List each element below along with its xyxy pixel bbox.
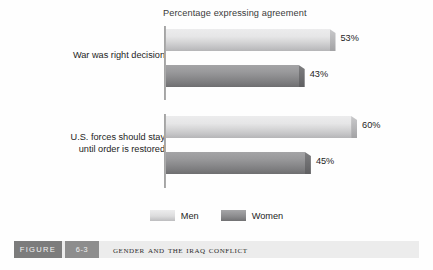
chart-title: Percentage expressing agreement [163,8,307,18]
figure-word-badge: FIGURE [14,241,62,258]
chart-legend: Men Women [0,210,433,221]
bar-end-cap [305,152,311,174]
bar-face [166,116,351,138]
bar-face [166,29,330,51]
bar-face [166,152,305,174]
figure-caption-bar: FIGURE 6-3 Gender and the Iraq Conflict [14,241,419,258]
bar-value-label: 53% [341,33,359,43]
bar-value-label: 43% [310,69,328,79]
bar-end-cap [299,65,305,87]
bar-end-cap [330,29,336,51]
bar-women[interactable] [166,152,305,174]
bar-group-us-forces-should-stay: U.S. forces should stay until order is r… [0,112,433,190]
legend-item-men[interactable]: Men [150,210,199,221]
plot-area: War was right decision 53% 43% U.S. forc… [0,24,433,204]
category-label: War was right decision [15,50,165,62]
bar-men[interactable] [166,116,351,138]
legend-swatch-men-icon [150,210,175,221]
bar-face [166,65,299,87]
category-label: U.S. forces should stay until order is r… [15,132,165,155]
bar-end-cap [351,116,357,138]
bar-group-war-was-right-decision: War was right decision 53% 43% [0,24,433,102]
legend-item-women[interactable]: Women [221,210,284,221]
legend-label-men: Men [181,211,199,221]
bar-women[interactable] [166,65,299,87]
bar-value-label: 60% [362,120,380,130]
bar-men[interactable] [166,29,330,51]
figure-caption-title: Gender and the Iraq Conflict [99,241,419,258]
legend-label-women: Women [252,211,284,221]
figure-number-badge: 6-3 [65,241,99,258]
bar-value-label: 45% [316,156,334,166]
legend-swatch-women-icon [221,210,246,221]
figure-root: Percentage expressing agreement War was … [0,0,433,270]
